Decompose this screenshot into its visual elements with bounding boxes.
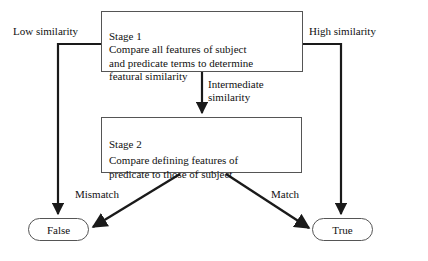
stage-2-box: Stage 2Compare defining features of pred…	[101, 117, 302, 173]
label-mismatch: Mismatch	[75, 188, 119, 201]
stage-2-body: Compare defining features of predicate t…	[109, 154, 297, 181]
terminal-false-label: False	[47, 224, 70, 236]
label-high-similarity: High similarity	[309, 25, 376, 38]
terminal-true-label: True	[332, 224, 352, 236]
stage-2-heading: Stage 2	[109, 138, 297, 152]
label-low-similarity: Low similarity	[13, 25, 78, 38]
label-intermediate-similarity: Intermediate similarity	[208, 78, 264, 104]
terminal-false: False	[28, 218, 89, 241]
stage-1-body: Compare all features of subject and pred…	[109, 43, 253, 82]
edge-high-similarity-to-true	[303, 44, 341, 214]
label-match: Match	[271, 188, 299, 201]
terminal-true: True	[312, 218, 373, 241]
diagram-canvas: Stage 1Compare all features of subject a…	[0, 0, 428, 261]
stage-1-heading: Stage 1	[109, 30, 298, 44]
stage-1-box: Stage 1Compare all features of subject a…	[101, 11, 303, 72]
